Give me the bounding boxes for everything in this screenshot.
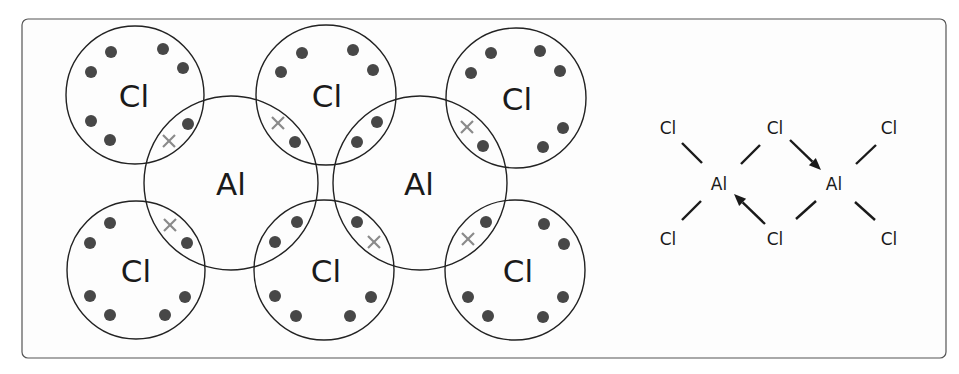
electron-dot-icon [344,310,356,322]
diagram-frame [22,19,946,358]
electron-dot-icon [465,67,477,79]
aluminium-label: Al [404,166,434,202]
electron-dot-icon [157,43,169,55]
electron-dot-icon [538,218,550,230]
electron-dot-icon [351,216,363,228]
electron-dot-icon [480,216,492,228]
electron-dot-icon [177,62,189,74]
electron-dot-icon [179,291,191,303]
chlorine-formula-label: Cl [881,118,898,138]
electron-dot-icon [105,46,117,58]
electron-dot-icon [537,141,549,153]
electron-dot-icon [367,64,379,76]
electron-dot-icon [558,238,570,250]
electron-dot-icon [159,309,171,321]
electron-dot-icon [84,237,96,249]
electron-dot-icon [485,47,497,59]
electron-dot-icon [351,136,363,148]
electron-dot-icon [104,217,116,229]
electron-dot-icon [182,118,194,130]
chlorine-formula-label: Cl [660,118,677,138]
aluminium-formula-label: Al [826,174,842,194]
electron-dot-icon [269,290,281,302]
electron-dot-icon [290,310,302,322]
chlorine-label: Cl [502,81,532,117]
electron-dot-icon [104,309,116,321]
chlorine-label: Cl [121,253,151,289]
aluminium-formula-label: Al [711,174,727,194]
electron-dot-icon [291,216,303,228]
electron-dot-icon [482,310,494,322]
aluminium-label: Al [216,166,246,202]
electron-dot-icon [477,140,489,152]
al2cl6-diagram: ClClClAlAlClClCl ClClClAlAlClClCl [0,0,959,374]
electron-dot-icon [537,311,549,323]
electron-dot-icon [269,236,281,248]
chlorine-formula-label: Cl [767,118,784,138]
electron-dot-icon [365,291,377,303]
electron-dot-icon [462,291,474,303]
electron-dot-icon [534,45,546,57]
electron-dot-icon [557,122,569,134]
electron-dot-icon [181,237,193,249]
electron-dot-icon [557,291,569,303]
chlorine-label: Cl [312,78,342,114]
electron-dot-icon [85,115,97,127]
electron-dot-icon [275,66,287,78]
chlorine-label: Cl [119,78,149,114]
electron-dot-icon [296,47,308,59]
electron-dot-icon [84,290,96,302]
chlorine-formula-label: Cl [881,229,898,249]
chlorine-formula-label: Cl [660,229,677,249]
chlorine-label: Cl [503,253,533,289]
electron-dot-icon [85,66,97,78]
chlorine-label: Cl [311,253,341,289]
electron-dot-icon [289,136,301,148]
electron-dot-icon [371,116,383,128]
electron-dot-icon [554,65,566,77]
electron-dot-icon [347,44,359,56]
chlorine-formula-label: Cl [767,229,784,249]
electron-dot-icon [104,134,116,146]
